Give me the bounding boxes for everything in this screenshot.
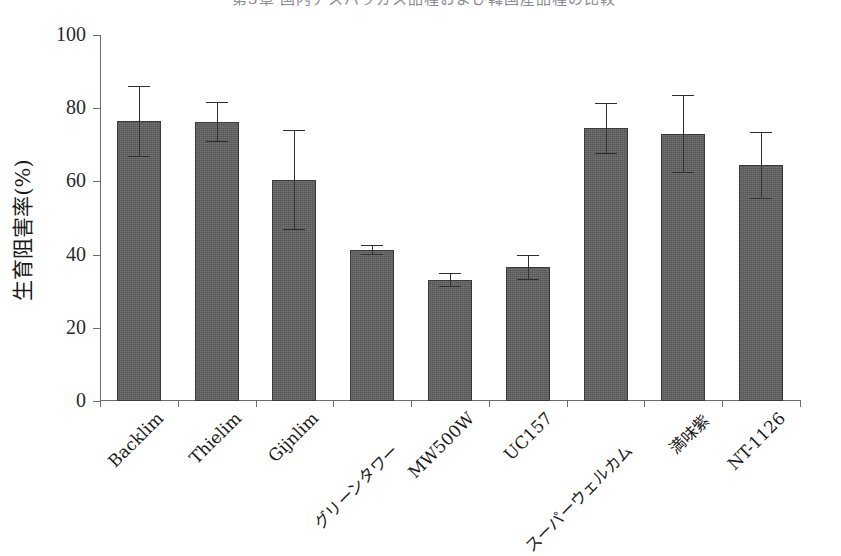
- error-bar-line: [217, 102, 218, 141]
- error-bar-cap-top: [595, 103, 617, 104]
- x-axis-label: 満味紫: [663, 408, 714, 459]
- x-tick: [333, 400, 334, 407]
- error-bar-cap-bottom: [128, 156, 150, 157]
- bar: [584, 128, 628, 401]
- error-bar-cap-top: [439, 273, 461, 274]
- error-bar-line: [139, 86, 140, 156]
- error-bar-cap-top: [206, 102, 228, 103]
- error-bar-cap-bottom: [750, 198, 772, 199]
- error-bar-cap-top: [672, 95, 694, 96]
- error-bar-cap-bottom: [517, 279, 539, 280]
- error-bar-line: [761, 132, 762, 198]
- y-tick-label-60: 60: [26, 170, 86, 190]
- y-tick-80: [93, 108, 101, 109]
- x-tick: [644, 400, 645, 407]
- error-bar-line: [606, 103, 607, 153]
- y-tick-20: [93, 328, 101, 329]
- x-tick: [100, 400, 101, 407]
- x-tick: [178, 400, 179, 407]
- x-axis-label: グリーンタワー: [308, 438, 403, 533]
- y-tick-label-100: 100: [26, 24, 86, 44]
- error-bar-cap-top: [517, 255, 539, 256]
- x-tick: [411, 400, 412, 407]
- x-tick: [489, 400, 490, 407]
- figure-container: 第3章 国内アスパラガス品種および韓国産品種の比較 生育阻害率(%) 02040…: [0, 0, 841, 556]
- error-bar-cap-top: [750, 132, 772, 133]
- x-axis-label: UC157: [499, 408, 555, 464]
- y-tick-100: [93, 35, 101, 36]
- bar: [506, 267, 550, 401]
- y-tick-60: [93, 181, 101, 182]
- page-caption-text: 第3章 国内アスパラガス品種および韓国産品種の比較: [232, 0, 616, 8]
- bar: [661, 134, 705, 401]
- x-tick: [256, 400, 257, 407]
- error-bar-cap-bottom: [595, 153, 617, 154]
- y-axis-line: [100, 35, 101, 401]
- y-tick-40: [93, 255, 101, 256]
- x-tick: [567, 400, 568, 407]
- error-bar-line: [372, 245, 373, 254]
- x-axis-label: スーパーウェルカム: [518, 438, 637, 556]
- bar: [195, 122, 239, 401]
- y-tick-label-0: 0: [26, 390, 86, 410]
- error-bar-cap-top: [283, 130, 305, 131]
- error-bar-line: [450, 273, 451, 286]
- error-bar-cap-bottom: [361, 254, 383, 255]
- x-axis-label: Thielim: [185, 408, 245, 468]
- bar: [350, 250, 394, 401]
- bar: [428, 280, 472, 402]
- x-axis-label: NT-1126: [723, 408, 789, 474]
- error-bar-cap-bottom: [206, 141, 228, 142]
- y-tick-label-40: 40: [26, 244, 86, 264]
- error-bar-cap-bottom: [672, 172, 694, 173]
- y-tick-label-80: 80: [26, 97, 86, 117]
- y-axis-title: 生育阻害率(%): [6, 120, 36, 340]
- x-tick: [800, 400, 801, 407]
- page-caption-strip: 第3章 国内アスパラガス品種および韓国産品種の比較: [0, 0, 841, 11]
- y-tick-label-20: 20: [26, 317, 86, 337]
- bar: [739, 165, 783, 401]
- x-axis-label: Backlim: [104, 408, 167, 471]
- x-axis-label: MW500W: [404, 408, 478, 482]
- error-bar-cap-top: [361, 245, 383, 246]
- bar: [117, 121, 161, 401]
- x-axis-label: Gijnlim: [264, 408, 322, 466]
- error-bar-cap-top: [128, 86, 150, 87]
- error-bar-line: [294, 130, 295, 229]
- x-tick: [722, 400, 723, 407]
- error-bar-line: [528, 255, 529, 279]
- error-bar-line: [683, 95, 684, 172]
- error-bar-cap-bottom: [439, 286, 461, 287]
- error-bar-cap-bottom: [283, 229, 305, 230]
- plot-area: 020406080100: [100, 35, 800, 401]
